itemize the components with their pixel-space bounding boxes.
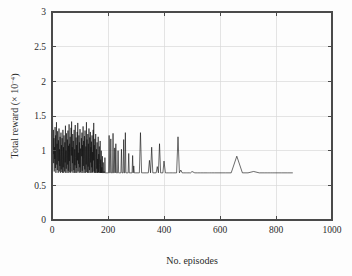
y-tick-label: 2.5 xyxy=(34,42,46,52)
x-axis-title: No. episodes xyxy=(166,255,218,266)
y-tick-label: 1.5 xyxy=(34,111,46,121)
data-series-layer xyxy=(52,12,293,173)
x-tick-label: 0 xyxy=(50,225,55,235)
y-axis-title-main: Total reward (× 10 xyxy=(9,84,21,159)
y-axis-title-group: Total reward (× 10−4) xyxy=(9,74,21,159)
y-tick-label: 0 xyxy=(41,215,46,225)
x-tick-label: 1000 xyxy=(323,225,342,235)
x-ticklabels-layer: 02004006008001000 xyxy=(50,225,342,235)
total-reward-line xyxy=(52,12,293,173)
y-tick-label: 2 xyxy=(41,77,46,87)
y-axis-title-close: ) xyxy=(9,74,21,77)
gridlines-layer xyxy=(52,12,332,220)
x-tick-label: 600 xyxy=(213,225,228,235)
figure-container: 02004006008001000 00.511.522.53 No. epis… xyxy=(0,0,352,276)
y-tick-label: 0.5 xyxy=(34,181,46,191)
y-ticklabels-layer: 00.511.522.53 xyxy=(34,7,46,225)
y-axis-title: Total reward (× 10−4) xyxy=(9,74,21,159)
x-tick-label: 400 xyxy=(157,225,172,235)
y-tick-label: 3 xyxy=(41,7,46,17)
x-tick-label: 200 xyxy=(101,225,116,235)
x-tick-label: 800 xyxy=(269,225,284,235)
reward-vs-episodes-chart: 02004006008001000 00.511.522.53 No. epis… xyxy=(0,0,352,276)
y-tick-label: 1 xyxy=(41,146,46,156)
